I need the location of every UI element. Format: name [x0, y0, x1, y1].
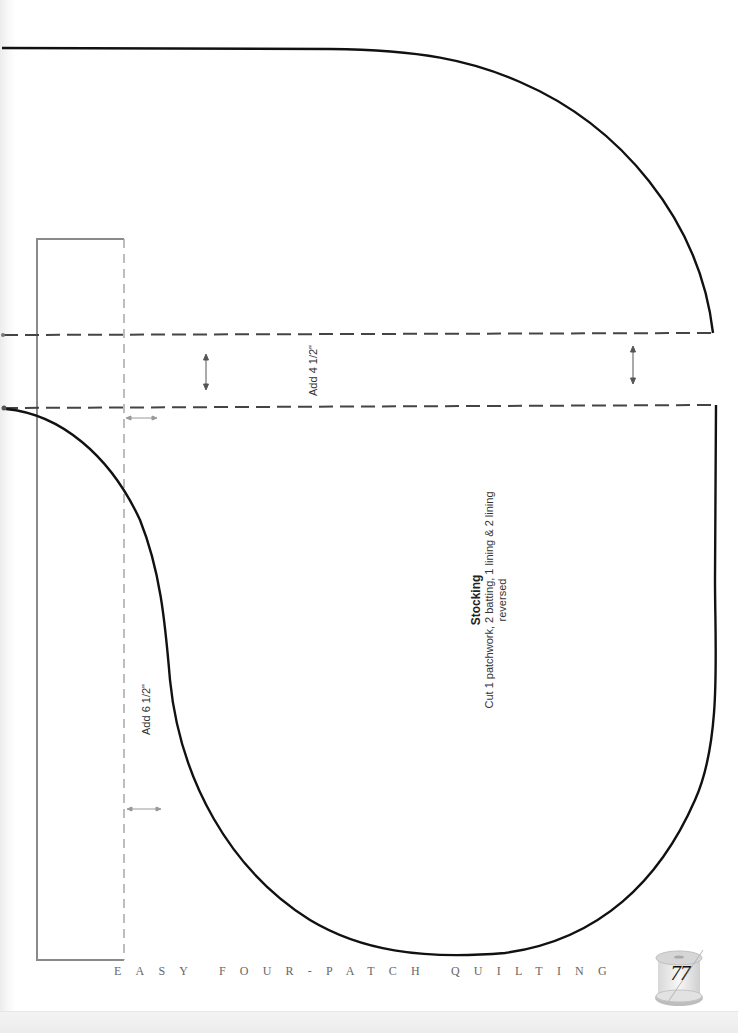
toe-arrow-bottom — [127, 807, 161, 811]
registration-mark-bottom — [2, 406, 7, 411]
page-bottom-edge — [0, 1011, 738, 1033]
toe-extension-label: Add 6 1/2" — [140, 684, 152, 735]
toe-arrow-top — [126, 416, 157, 420]
band-bottom-dashed-line — [4, 405, 716, 408]
cut-instructions: Cut 1 patchwork, 2 batting, 1 lining & 2… — [483, 485, 509, 715]
registration-mark-top — [1, 333, 5, 337]
band-extension-label: Add 4 1/2" — [307, 345, 319, 396]
toe-extension-guide — [37, 239, 124, 960]
band-top-dashed-line — [4, 333, 713, 335]
lower-cutting-line — [6, 405, 716, 955]
upper-cutting-line — [2, 48, 713, 333]
page-number: 77 — [665, 961, 695, 986]
piece-name: Stocking — [470, 485, 483, 715]
page-number-badge: 77 — [650, 944, 710, 1010]
band-arrow-left — [204, 354, 209, 390]
pattern-piece-label: Stocking Cut 1 patchwork, 2 batting, 1 l… — [470, 485, 509, 715]
band-arrow-right — [631, 346, 636, 384]
book-title-footer: EASY FOUR-PATCH QUILTING — [114, 964, 621, 979]
